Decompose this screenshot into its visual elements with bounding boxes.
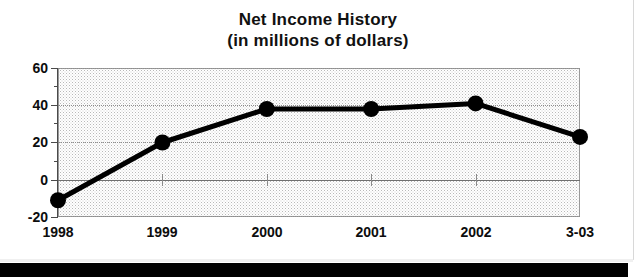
data-point-1999 [154, 135, 170, 151]
y-tick-60 [51, 68, 58, 69]
data-point-1998 [50, 192, 66, 208]
y-axis-label-60: 60 [0, 61, 48, 75]
y-axis-label-0: 0 [0, 173, 48, 187]
y-axis-label-40: 40 [0, 98, 48, 112]
chart-page: Net Income History (in millions of dolla… [0, 0, 636, 279]
data-point-2001 [363, 101, 379, 117]
line-chart: 60 40 20 0 -20 1998 1999 2000 2001 2002 … [0, 0, 636, 260]
data-point-2002 [468, 95, 484, 111]
data-series [58, 68, 580, 217]
data-point-2000 [259, 101, 275, 117]
y-tick-minus20 [51, 217, 58, 218]
page-edge-shadow [0, 259, 633, 262]
x-axis-label-2000: 2000 [222, 224, 312, 240]
y-axis-label-minus20: -20 [0, 210, 48, 224]
x-axis-label-1999: 1999 [117, 224, 207, 240]
x-axis-label-3-03: 3-03 [535, 224, 625, 240]
y-axis-label-20: 20 [0, 135, 48, 149]
series-line [58, 103, 580, 200]
bottom-black-bar [0, 263, 628, 277]
y-tick-20 [51, 142, 58, 143]
x-axis-label-1998: 1998 [13, 224, 103, 240]
data-point-3-03 [572, 129, 588, 145]
x-axis-label-2001: 2001 [326, 224, 416, 240]
y-tick-40 [51, 105, 58, 106]
y-tick-0 [51, 180, 58, 181]
x-axis-label-2002: 2002 [431, 224, 521, 240]
